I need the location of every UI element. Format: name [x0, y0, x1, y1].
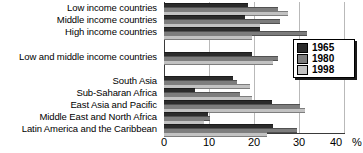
legend-swatch-1965-icon [297, 43, 308, 53]
legend-swatch-1998-icon [297, 65, 308, 75]
x-axis-tick-labels: 0 10 20 30 40 % [0, 136, 363, 150]
bar-chart: Low income countries Middle income count… [0, 0, 363, 153]
x-tick-label-20: 20 [248, 136, 260, 148]
category-label-middle-income-countries: Middle income countries [57, 15, 157, 25]
category-label-high-income-countries: High income countries [65, 27, 157, 37]
legend-item-1980[interactable]: 1980 [297, 53, 351, 64]
category-label-middle-east-and-north-africa: Middle East and North Africa [39, 112, 157, 122]
x-tick-label-0: 0 [161, 136, 167, 148]
category-label-low-income-countries: Low income countries [67, 3, 157, 13]
category-label-latin-america-and-the-caribbean: Latin America and the Caribbean [22, 124, 157, 134]
category-label-low-and-middle-income-countries: Low and middle income countries [19, 52, 157, 62]
legend-label-1998: 1998 [312, 65, 334, 75]
legend: 1965 1980 1998 [293, 39, 355, 78]
category-axis-labels: Low income countries Middle income count… [0, 0, 160, 153]
x-tick-label-10: 10 [203, 136, 215, 148]
bar-1998-3 [164, 60, 273, 65]
legend-label-1965: 1965 [312, 43, 334, 53]
x-axis-unit-label: % [352, 136, 362, 148]
legend-item-1965[interactable]: 1965 [297, 42, 351, 53]
x-tick-label-40: 40 [330, 136, 342, 148]
bar-1998-2 [164, 35, 252, 40]
x-tick-label-30: 30 [293, 136, 305, 148]
category-label-east-asia-and-pacific: East Asia and Pacific [70, 100, 157, 110]
category-label-south-asia: South Asia [113, 76, 157, 86]
legend-swatch-1980-icon [297, 54, 308, 64]
category-label-sub-saharan-africa: Sub-Saharan Africa [76, 88, 157, 98]
legend-label-1980: 1980 [312, 54, 334, 64]
legend-item-1998[interactable]: 1998 [297, 64, 351, 75]
